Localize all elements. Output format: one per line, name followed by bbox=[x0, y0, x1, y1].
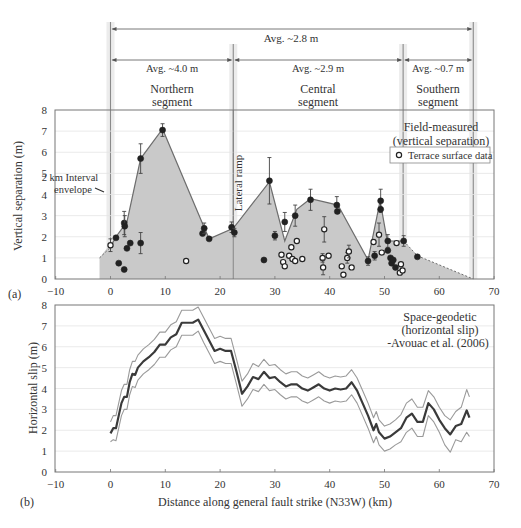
panel-a-y-tick-label: 7 bbox=[42, 125, 48, 137]
field-data-point bbox=[160, 127, 166, 133]
field-data-point bbox=[334, 202, 340, 208]
lateral-ramp-label: Lateral ramp bbox=[232, 154, 244, 211]
panel-a-x-tick-label: 50 bbox=[379, 285, 391, 297]
field-data-point bbox=[372, 253, 378, 259]
panel-b-y-tick-label: 6 bbox=[42, 341, 48, 353]
field-data-point bbox=[378, 198, 384, 204]
northern-segment-label-line2: segment bbox=[152, 95, 193, 109]
terrace-data-point bbox=[279, 252, 284, 257]
panel-b-y-tick-label: 1 bbox=[42, 445, 48, 457]
panel-b-title-line2: (horizontal slip) bbox=[402, 323, 479, 337]
panel-a-y-tick-label: 8 bbox=[42, 104, 48, 116]
northern-average-label: Avg. ~4.0 m bbox=[146, 63, 198, 74]
terrace-data-point bbox=[376, 232, 381, 237]
panel-a-y-tick-label: 3 bbox=[42, 210, 48, 222]
panel-a-x-tick-label: −10 bbox=[47, 285, 65, 297]
panel-b-title-line3: -Avouac et al. (2006) bbox=[387, 336, 489, 350]
panel-a-vertical-separation: −10010203040506070 012345678 Vertical se… bbox=[8, 104, 500, 301]
terrace-data-point bbox=[294, 238, 299, 243]
field-data-point bbox=[414, 254, 420, 260]
southern-segment-label-line1: Southern bbox=[416, 82, 459, 96]
terrace-data-point bbox=[322, 227, 327, 232]
central-segment-label-line1: Central bbox=[300, 82, 336, 96]
panel-b-x-tick-label: 30 bbox=[269, 478, 281, 490]
terrace-data-point bbox=[108, 243, 113, 248]
field-data-point bbox=[378, 206, 384, 212]
legend-label: Terrace surface data bbox=[408, 150, 493, 161]
northern-segment-label-line1: Northern bbox=[150, 82, 193, 96]
panel-b-x-tick-label: 70 bbox=[489, 478, 501, 490]
field-data-point bbox=[390, 257, 396, 263]
central-average-label: Avg. ~2.9 m bbox=[292, 63, 344, 74]
field-data-point bbox=[116, 260, 122, 266]
terrace-data-point bbox=[346, 249, 351, 254]
field-data-point bbox=[206, 236, 212, 242]
panel-b-x-tick-label: 10 bbox=[160, 478, 172, 490]
panel-b-x-tick-label: −10 bbox=[47, 478, 65, 490]
panel-b-y-tick-label: 0 bbox=[42, 466, 48, 478]
southern-segment-label-line2: segment bbox=[418, 95, 459, 109]
field-data-point bbox=[272, 233, 278, 239]
panel-a-x-tick-label: 20 bbox=[215, 285, 227, 297]
terrace-data-point bbox=[400, 268, 405, 273]
field-data-point bbox=[401, 238, 407, 244]
field-data-point bbox=[261, 257, 267, 263]
field-data-point bbox=[127, 240, 133, 246]
field-data-point bbox=[138, 240, 144, 246]
envelope-label-line2: envelope bbox=[54, 184, 92, 195]
panel-b-x-tick-label: 60 bbox=[434, 478, 446, 490]
panel-b-y-ticks: 012345678 bbox=[42, 299, 48, 478]
envelope-label-line1: 2 km Interval bbox=[42, 172, 99, 183]
terrace-data-point bbox=[379, 250, 384, 255]
terrace-data-point bbox=[341, 272, 346, 277]
panel-b-x-tick-label: 50 bbox=[379, 478, 391, 490]
panel-b-x-tick-label: 20 bbox=[215, 478, 227, 490]
field-data-point bbox=[113, 235, 119, 241]
panel-b-x-label: Distance along general fault strike (N33… bbox=[158, 495, 392, 509]
field-data-point bbox=[308, 197, 314, 203]
panel-b-label: (b) bbox=[20, 495, 34, 509]
terrace-data-point bbox=[293, 258, 298, 263]
legend: Terrace surface data bbox=[390, 147, 493, 163]
terrace-data-point bbox=[371, 239, 376, 244]
field-data-point bbox=[292, 213, 298, 219]
panel-b-x-tick-label: 40 bbox=[324, 478, 336, 490]
panel-b-y-tick-label: 4 bbox=[42, 383, 48, 395]
southern-average-label: Avg. ~0.7 m bbox=[412, 63, 464, 74]
panel-a-y-ticks: 012345678 bbox=[42, 104, 48, 285]
panel-b-y-label: Horizontal slip (m) bbox=[26, 342, 40, 434]
panel-b-y-tick-label: 3 bbox=[42, 403, 48, 415]
panel-a-x-tick-label: 70 bbox=[489, 285, 501, 297]
panel-a-x-tick-label: 10 bbox=[160, 285, 172, 297]
panel-a-x-tick-label: 60 bbox=[434, 285, 446, 297]
overall-average-label: Avg. ~2.8 m bbox=[264, 32, 319, 44]
panel-a-x-tick-label: 30 bbox=[269, 285, 281, 297]
panel-a-y-tick-label: 1 bbox=[42, 252, 48, 264]
field-data-point bbox=[385, 238, 391, 244]
field-data-point bbox=[334, 208, 340, 214]
central-segment-label-line2: segment bbox=[298, 95, 339, 109]
panel-a-x-tick-label: 40 bbox=[324, 285, 336, 297]
field-data-point bbox=[266, 178, 272, 184]
terrace-data-point bbox=[349, 265, 354, 270]
field-data-point bbox=[385, 247, 391, 253]
field-data-point bbox=[124, 245, 130, 251]
terrace-data-point bbox=[289, 245, 294, 250]
panel-b-y-tick-label: 7 bbox=[42, 320, 48, 332]
panel-a-y-tick-label: 2 bbox=[42, 231, 48, 243]
field-data-point bbox=[282, 219, 288, 225]
panel-a-y-tick-label: 0 bbox=[42, 273, 48, 285]
open-circle-marker-icon bbox=[396, 152, 401, 157]
panel-b-y-tick-label: 2 bbox=[42, 424, 48, 436]
panel-b-y-tick-label: 5 bbox=[42, 362, 48, 374]
terrace-data-point bbox=[326, 253, 331, 258]
terrace-data-point bbox=[394, 240, 399, 245]
field-data-point bbox=[138, 156, 144, 162]
envelope-arrow-icon bbox=[95, 188, 104, 192]
terrace-data-point bbox=[300, 256, 305, 261]
panel-b-y-tick-label: 8 bbox=[42, 299, 48, 311]
panel-a-y-tick-label: 4 bbox=[42, 189, 48, 201]
terrace-data-point bbox=[184, 258, 189, 263]
terrace-data-point bbox=[282, 264, 287, 269]
panel-a-title-line2: (vertical separation) bbox=[393, 134, 489, 148]
